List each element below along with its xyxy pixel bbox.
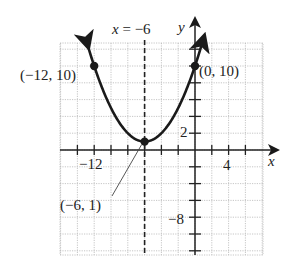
vertex-callout-line bbox=[112, 145, 142, 196]
point-label-left: (−12, 10) bbox=[20, 67, 76, 84]
parabola-graph: x = −6 y x −12 4 2 −8 (−12, 10) (0, 10) … bbox=[0, 0, 290, 257]
tick-label-x-4: 4 bbox=[223, 157, 231, 173]
tick-label-y-neg8: −8 bbox=[168, 211, 184, 227]
axis-of-symmetry-label: x = −6 bbox=[111, 21, 151, 37]
tick-label-y-2: 2 bbox=[180, 124, 188, 140]
point-marker-1 bbox=[191, 62, 199, 70]
tick-label-x-neg12: −12 bbox=[79, 156, 102, 172]
y-axis-label: y bbox=[176, 19, 185, 35]
point-marker-2 bbox=[140, 137, 148, 145]
point-marker-0 bbox=[90, 62, 98, 70]
x-axis-label: x bbox=[267, 153, 275, 169]
point-label-right: (0, 10) bbox=[199, 63, 239, 80]
point-label-vertex: (−6, 1) bbox=[60, 197, 101, 214]
